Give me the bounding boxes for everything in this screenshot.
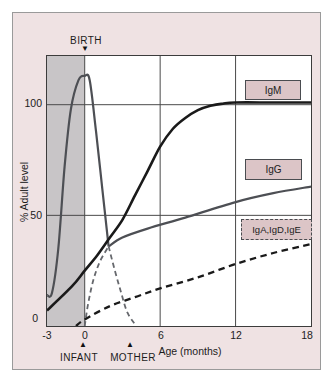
legend-igm-label: IgM: [265, 85, 282, 96]
legend-iga-igd-ige: IgA,IgD,IgE: [241, 219, 312, 240]
legend-igg: IgG: [245, 159, 302, 180]
curves: [47, 75, 311, 326]
legend-igg-label: IgG: [265, 164, 281, 175]
y-tick-0: 0: [18, 312, 38, 324]
x-tick-12: 12: [228, 329, 244, 341]
curve-igm: [47, 102, 311, 310]
infant-label: INFANT: [54, 352, 104, 363]
x-tick-6: 6: [154, 329, 168, 341]
figure-page: BIRTH ▼ % Adult level 100 50 0 -3 0 6 12…: [0, 0, 329, 390]
legend-iga-igd-ige-label: IgA,IgD,IgE: [252, 224, 301, 235]
x-tick-neg3: -3: [38, 329, 56, 341]
y-tick-50: 50: [18, 209, 42, 221]
y-tick-100: 100: [18, 97, 42, 109]
mother-label: MOTHER: [106, 352, 160, 363]
infant-marker-icon: ▲: [77, 341, 89, 349]
birth-marker-icon: ▼: [79, 45, 91, 53]
legend-igm: IgM: [245, 80, 301, 100]
mother-marker-icon: ▲: [124, 341, 136, 349]
curve-igg-maternal-decline: [109, 246, 137, 326]
x-axis-label: Age (months): [152, 345, 228, 357]
x-tick-18: 18: [299, 329, 315, 341]
curve-igg-infant-production: [85, 246, 109, 326]
